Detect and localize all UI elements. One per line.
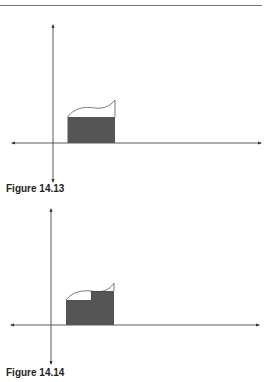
figure-caption-14-14: Figure 14.14 bbox=[6, 367, 64, 378]
rectangle-approximation-1 bbox=[66, 300, 92, 325]
figure-14-14-diagram bbox=[10, 208, 260, 365]
curve bbox=[68, 100, 116, 117]
figure-caption-14-13: Figure 14.13 bbox=[6, 183, 64, 194]
x-axis-arrow-left-icon bbox=[11, 142, 15, 145]
figure-14-13-diagram bbox=[11, 24, 262, 183]
y-axis-arrow-down-icon bbox=[50, 361, 53, 365]
x-axis-arrow-right-icon bbox=[256, 324, 260, 327]
x-axis-arrow-right-icon bbox=[258, 142, 262, 145]
rectangle-approximation-2 bbox=[91, 291, 114, 325]
x-axis-arrow-left-icon bbox=[10, 324, 14, 327]
rectangle-approximation bbox=[68, 117, 116, 143]
y-axis-arrow-up-icon bbox=[52, 24, 55, 28]
y-axis-arrow-up-icon bbox=[50, 208, 53, 212]
